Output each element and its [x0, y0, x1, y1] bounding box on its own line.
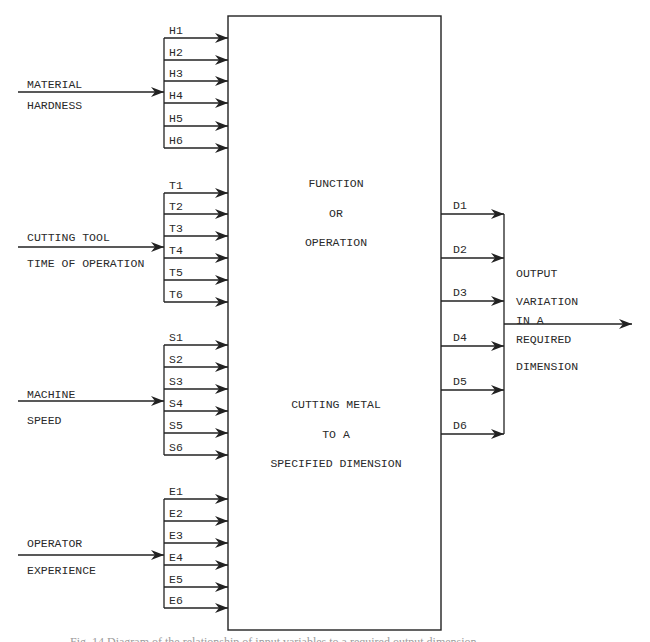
machine-speed-label-line: MACHINE — [27, 388, 75, 401]
branch-label-s6: S6 — [169, 441, 183, 454]
output-description-line: REQUIRED — [516, 333, 571, 346]
output-label-d3: D3 — [453, 286, 467, 299]
branch-label-h1: H1 — [169, 24, 183, 37]
output-description-line: IN A — [516, 314, 544, 327]
function-box — [228, 16, 441, 630]
figure-caption: Fig. 14 Diagram of the relationship of i… — [70, 633, 630, 642]
function-title-line: OPERATION — [305, 236, 367, 249]
branch-label-h3: H3 — [169, 67, 183, 80]
diagram-labels: FUNCTIONOROPERATIONCUTTING METALTO ASPEC… — [27, 24, 578, 607]
branch-label-h2: H2 — [169, 46, 183, 59]
operation-description-line: CUTTING METAL — [291, 398, 381, 411]
branch-label-t4: T4 — [169, 244, 183, 257]
branch-label-e2: E2 — [169, 507, 183, 520]
output-label-d5: D5 — [453, 375, 467, 388]
operation-description-line: SPECIFIED DIMENSION — [270, 457, 401, 470]
output-label-d1: D1 — [453, 199, 467, 212]
branch-label-s5: S5 — [169, 419, 183, 432]
branch-label-s1: S1 — [169, 331, 183, 344]
branch-label-t5: T5 — [169, 266, 183, 279]
branch-label-e1: E1 — [169, 485, 183, 498]
operator-experience-label-line: EXPERIENCE — [27, 564, 96, 577]
material-hardness-label-line: MATERIAL — [27, 78, 82, 91]
branch-label-h4: H4 — [169, 89, 183, 102]
branch-label-s3: S3 — [169, 375, 183, 388]
output-description-line: VARIATION — [516, 295, 578, 308]
output-label-d2: D2 — [453, 243, 467, 256]
branch-label-h6: H6 — [169, 134, 183, 147]
machine-speed-label-line: SPEED — [27, 414, 62, 427]
material-hardness-label-line: HARDNESS — [27, 99, 82, 112]
branch-label-t1: T1 — [169, 179, 183, 192]
branch-label-s2: S2 — [169, 353, 183, 366]
function-title-line: OR — [329, 207, 343, 220]
branch-label-t6: T6 — [169, 288, 183, 301]
output-description-line: OUTPUT — [516, 267, 558, 280]
branch-label-e6: E6 — [169, 594, 183, 607]
operation-description-line: TO A — [322, 428, 350, 441]
operator-experience-label-line: OPERATOR — [27, 537, 82, 550]
branch-label-s4: S4 — [169, 397, 183, 410]
branch-label-e5: E5 — [169, 573, 183, 586]
function-box-border — [228, 16, 441, 630]
branch-label-e3: E3 — [169, 529, 183, 542]
branch-label-t2: T2 — [169, 200, 183, 213]
output-description-line: DIMENSION — [516, 360, 578, 373]
output-label-d4: D4 — [453, 331, 467, 344]
output-label-d6: D6 — [453, 419, 467, 432]
branch-label-t3: T3 — [169, 222, 183, 235]
function-title-line: FUNCTION — [308, 177, 363, 190]
branch-label-h5: H5 — [169, 112, 183, 125]
branch-label-e4: E4 — [169, 551, 183, 564]
cutting-tool-time-label-line: CUTTING TOOL — [27, 231, 110, 244]
process-diagram: FUNCTIONOROPERATIONCUTTING METALTO ASPEC… — [0, 0, 650, 642]
cutting-tool-time-label-line: TIME OF OPERATION — [27, 257, 144, 270]
